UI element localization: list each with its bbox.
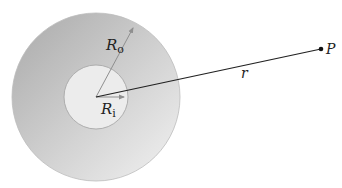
field-point-dot — [319, 47, 324, 52]
point-label: P — [325, 41, 336, 57]
inner-radius-symbol: R — [100, 100, 112, 118]
distance-label: r — [241, 65, 249, 81]
shell-diagram: Ro Ri r P — [0, 0, 342, 188]
inner-radius-subscript: i — [112, 107, 116, 120]
outer-radius-subscript: o — [117, 43, 124, 56]
outer-radius-symbol: R — [105, 36, 117, 54]
